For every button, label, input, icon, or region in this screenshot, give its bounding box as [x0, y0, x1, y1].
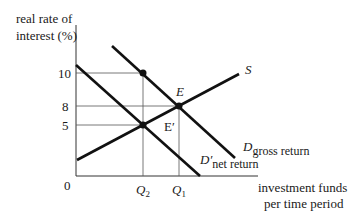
y-tick-5: 5: [62, 118, 69, 133]
x-axis-label-line1: investment funds: [258, 180, 347, 195]
demand-net-label: D′net return: [199, 152, 259, 171]
y-axis-label-line1: real rate of: [16, 11, 73, 26]
demand-net-curve: [76, 65, 200, 176]
demand-gross-label: Dgross return: [242, 139, 309, 158]
point-e-prime: [140, 122, 147, 129]
point-gross-at-q2: [140, 70, 147, 77]
origin-label: 0: [64, 178, 71, 193]
y-tick-10: 10: [58, 66, 71, 81]
y-axis-label-line2: interest (%): [16, 28, 77, 43]
x-tick-q1: Q1: [172, 182, 186, 199]
demand-gross-curve: [112, 46, 235, 158]
supply-label: S: [245, 62, 252, 77]
point-e: [176, 103, 183, 110]
point-e-label: E: [175, 84, 184, 99]
point-e-prime-label: E′: [164, 119, 175, 134]
diagram-canvas: real rate of interest (%) 10 8 5 0 Q2 Q1…: [0, 0, 353, 221]
x-axis-label-line2: per time period: [264, 196, 344, 211]
x-tick-q2: Q2: [136, 182, 150, 199]
y-tick-8: 8: [62, 99, 69, 114]
